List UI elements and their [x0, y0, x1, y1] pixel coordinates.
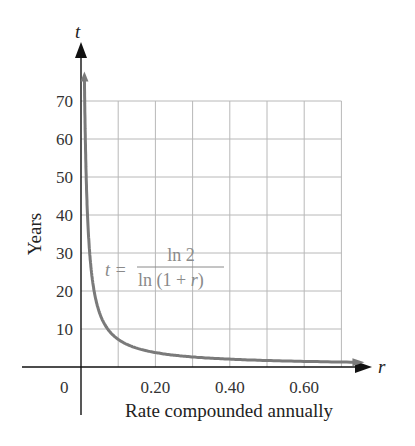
origin-label: 0 — [60, 378, 69, 397]
x-tick-label: 0.40 — [215, 378, 245, 397]
formula-denominator: ln (1 + r) — [138, 270, 204, 291]
y-axis-arrow-icon — [75, 42, 87, 58]
x-tick-label: 0.20 — [141, 378, 171, 397]
y-tick-label: 10 — [56, 320, 73, 339]
curve — [80, 71, 364, 366]
x-axis-variable: r — [378, 356, 386, 377]
y-tick-label: 40 — [56, 206, 73, 225]
grid-lines — [81, 101, 341, 367]
y-tick-label: 30 — [56, 244, 73, 263]
x-axis-title: Rate compounded annually — [125, 400, 333, 421]
formula-lhs: t = — [105, 260, 127, 280]
y-axis-variable: t — [75, 21, 81, 42]
y-tick-label: 70 — [56, 92, 73, 111]
chart-svg: 102030405060700.200.400.60 t r 0 Rate co… — [0, 0, 415, 446]
formula-numerator: ln 2 — [167, 245, 195, 265]
curve-line — [84, 79, 354, 362]
x-tick-label: 0.60 — [289, 378, 319, 397]
y-tick-label: 60 — [56, 130, 73, 149]
y-axis-title: Years — [24, 213, 45, 255]
formula-annotation: t = ln 2 ln (1 + r) — [105, 245, 224, 291]
axes — [22, 42, 372, 415]
y-tick-label: 20 — [56, 282, 73, 301]
y-tick-label: 50 — [56, 168, 73, 187]
